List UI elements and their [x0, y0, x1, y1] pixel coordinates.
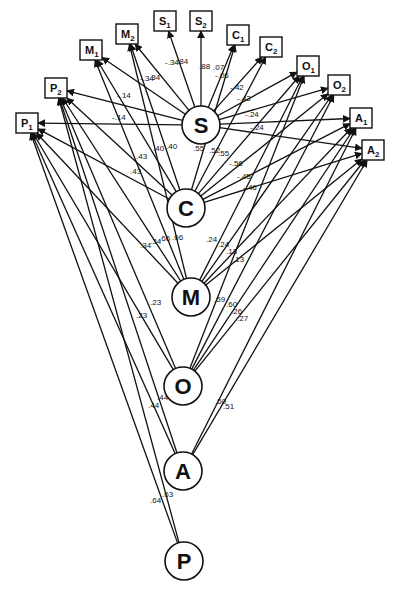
coefficient-label: -.42: [230, 83, 244, 92]
path-diagram: -.34.84-.34.34-.14-.14.88.07-.06-.42-.43…: [0, 0, 396, 590]
coefficient-label: .34: [149, 73, 161, 82]
coefficient-label: .55: [193, 144, 205, 153]
latent-label: M: [182, 285, 200, 310]
indicator-node-o2: O2: [328, 75, 350, 95]
latent-label: O: [174, 374, 191, 399]
latent-label: S: [194, 113, 209, 138]
coefficient-label: -.06: [215, 71, 229, 80]
coefficient-label: .64: [150, 496, 162, 505]
coefficient-label: .27: [237, 314, 249, 323]
edge-o-to-a1: [194, 128, 355, 370]
coefficient-label: .43: [136, 152, 148, 161]
coefficient-label: .43: [130, 167, 142, 176]
coefficient-label: .13: [233, 255, 245, 264]
indicator-node-s1: S1: [154, 11, 176, 31]
edge-m-to-o1: [200, 76, 303, 280]
edge-s-to-s1: [169, 31, 195, 107]
indicator-node-s2: S2: [190, 11, 212, 31]
indicator-node-p2: P2: [45, 78, 67, 98]
latent-node-s: S: [182, 106, 220, 144]
edge-s-to-a2: [220, 128, 362, 149]
coefficient-label: .23: [136, 311, 148, 320]
coefficient-label: -.24: [245, 110, 259, 119]
coefficient-label: .66: [159, 234, 171, 243]
indicator-node-o1: O1: [297, 56, 319, 76]
indicator-node-c1: C1: [227, 25, 249, 45]
edge-p-to-p2: [59, 98, 179, 543]
coefficient-label: -.56: [229, 159, 243, 168]
edge-c-to-p1: [38, 129, 169, 199]
indicator-node-m1: M1: [80, 40, 102, 60]
coefficient-label: .44: [148, 401, 160, 410]
latent-label: C: [178, 196, 194, 221]
coefficient-label: -.14: [112, 113, 126, 122]
indicator-node-a2: A2: [362, 140, 384, 160]
coefficient-label: .23: [150, 298, 162, 307]
coefficient-label: -.46: [243, 183, 257, 192]
edge-p-to-p1: [31, 133, 178, 543]
coefficient-label: -.45: [237, 172, 251, 181]
indicator-node-m2: M2: [116, 24, 138, 44]
coefficient-label: .24: [206, 235, 218, 244]
coefficient-label: .40: [153, 144, 165, 153]
coefficient-label: .51: [223, 402, 235, 411]
edge-s-to-p1: [38, 123, 182, 125]
coefficient-label: -.24: [250, 123, 264, 132]
coefficient-label: .59: [214, 295, 226, 304]
coefficient-label: .88: [199, 62, 211, 71]
coefficient-label: .66: [172, 233, 184, 242]
indicator-node-a1: A1: [350, 108, 372, 128]
latent-node-p: P: [165, 542, 203, 580]
latent-node-m: M: [172, 278, 210, 316]
coefficient-label: .40: [166, 142, 178, 151]
latent-node-c: C: [167, 189, 205, 227]
indicator-node-p1: P1: [16, 113, 38, 133]
coefficient-label: .84: [177, 57, 189, 66]
coefficient-label: .55: [218, 149, 230, 158]
coefficient-label: .63: [162, 490, 174, 499]
latent-label: A: [175, 459, 191, 484]
latent-node-a: A: [164, 452, 202, 490]
latent-node-o: O: [164, 367, 202, 405]
indicator-node-c2: C2: [260, 37, 282, 57]
coefficient-label: -.43: [237, 94, 251, 103]
coefficient-label: -.14: [117, 91, 131, 100]
latent-label: P: [177, 549, 192, 574]
